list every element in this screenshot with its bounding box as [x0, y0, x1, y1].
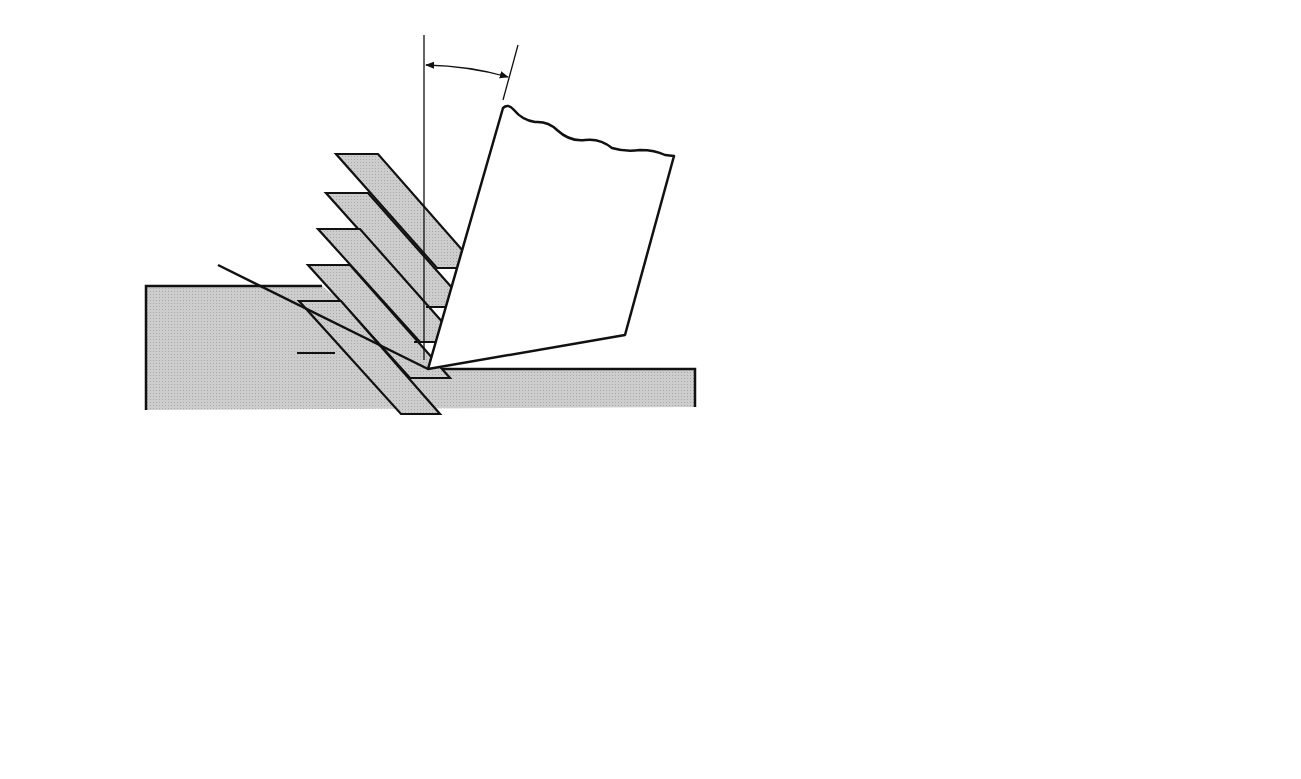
panel-a: [146, 35, 695, 414]
shear-plane-model-figure: [0, 0, 1301, 779]
tool: [428, 106, 674, 369]
